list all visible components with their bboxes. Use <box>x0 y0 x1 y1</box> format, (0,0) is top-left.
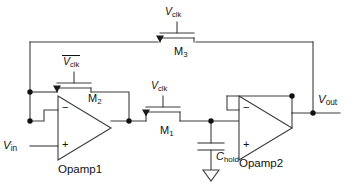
m2-clock-label: Vclk <box>62 55 80 69</box>
capacitor-label: Chold <box>216 150 239 164</box>
device-label-m3: M3 <box>174 45 188 59</box>
circuit-schematic-svg <box>0 0 360 194</box>
opamp1-minus-pin: − <box>62 101 68 113</box>
output-port-label: Vout <box>318 93 337 107</box>
junction-opamp1-output-node <box>126 118 131 123</box>
opamp2-label: Opamp2 <box>239 157 283 169</box>
junction-opamp1-minus-node <box>27 118 32 123</box>
input-port-label: Vin <box>3 139 17 153</box>
device-label-m1: M1 <box>160 124 174 138</box>
circuit-diagram: Vclk M3 Vclk M2 Vclk M1 − + Opamp1 − + O… <box>0 0 360 194</box>
opamp1-label: Opamp1 <box>58 163 102 175</box>
opamp1-plus-pin: + <box>62 138 68 150</box>
m1-source-arrow <box>142 110 150 117</box>
junction-opamp2-feedback-node <box>289 93 294 98</box>
junction-m2-left-node <box>27 89 32 94</box>
wire-opamp1-minus-input <box>30 110 58 121</box>
wire-opamp2-feedback-to-minus <box>227 96 239 110</box>
m3-clock-label: Vclk <box>165 5 181 19</box>
opamp2-plus-pin: + <box>243 138 249 150</box>
junction-hold-node <box>208 118 213 123</box>
m1-clock-label: Vclk <box>151 79 167 93</box>
junction-vout-node <box>310 110 315 115</box>
ground-symbol <box>203 170 219 181</box>
device-label-m2: M2 <box>88 92 102 106</box>
opamp2-minus-pin: − <box>243 101 249 113</box>
